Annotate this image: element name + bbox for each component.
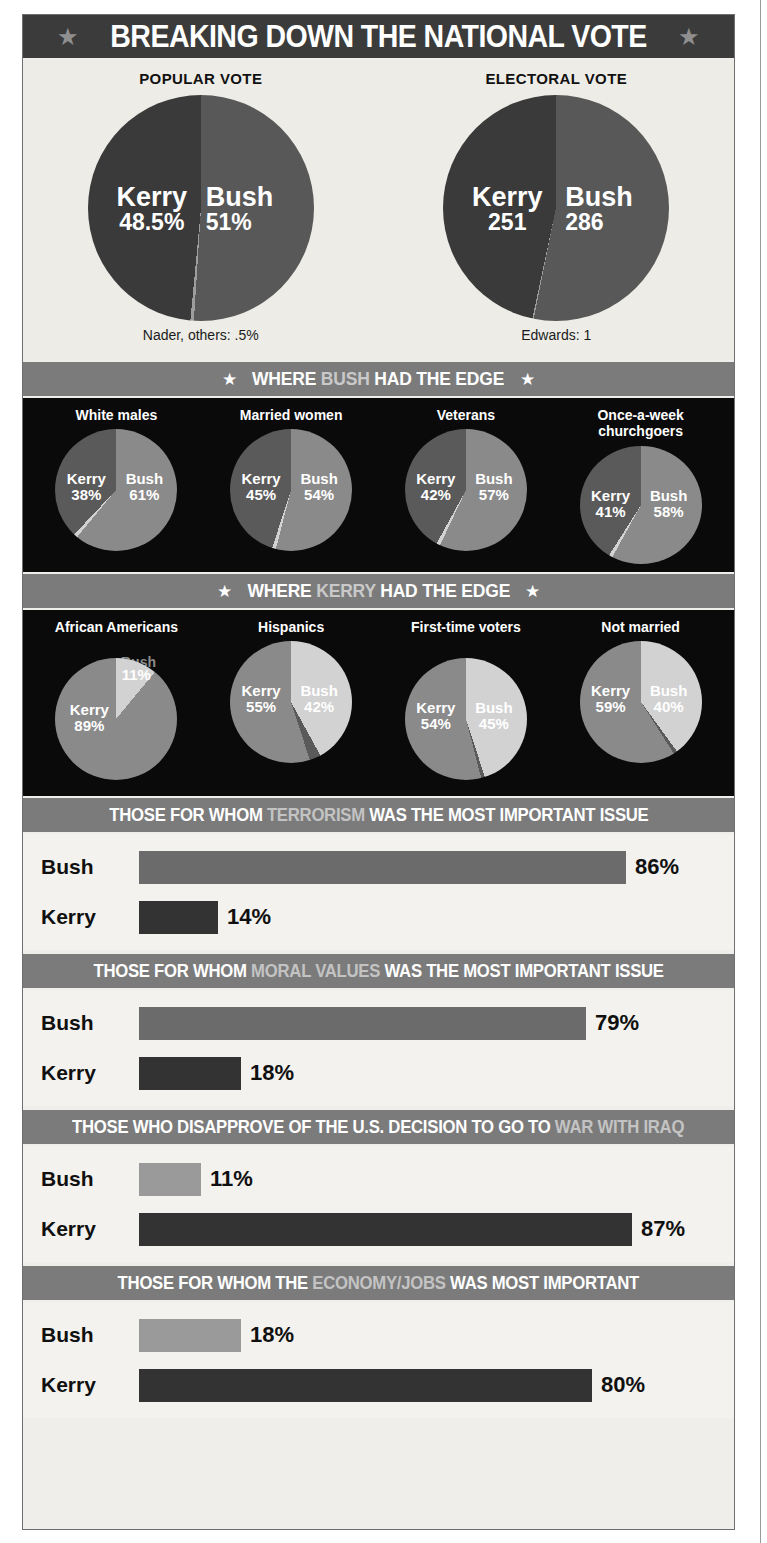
issue-terrorism-highlight: TERRORISM	[267, 805, 365, 825]
issue-economy-jobs-highlight: ECONOMY/JOBS	[312, 1273, 445, 1293]
kerry-demographics-row: African Americans Bush Kerry 89% 11% His…	[23, 610, 734, 796]
issue-header-iraq-war-text: THOSE WHO DISAPPROVE OF THE U.S. DECISIO…	[72, 1117, 684, 1138]
kerry-edge-band-text: WHERE KERRY HAD THE EDGE	[247, 580, 510, 602]
star-icon-left: ★	[57, 25, 79, 49]
issue-header-economy-jobs: THOSE FOR WHOM THE ECONOMY/JOBS WAS MOST…	[23, 1264, 734, 1300]
bush-band-highlight: BUSH	[321, 368, 370, 389]
demo-veterans-bush-label: Bush 57%	[467, 471, 521, 502]
issue-economy-jobs-prefix: THOSE FOR WHOM THE	[118, 1273, 313, 1293]
bar-track-economy-jobs-bush: 18%	[139, 1319, 724, 1352]
bar-row-moral-values-bush: Bush 79%	[35, 1002, 724, 1044]
issue-economy-jobs-suffix: WAS MOST IMPORTANT	[446, 1273, 639, 1293]
bar-track-moral-values-bush: 79%	[139, 1007, 724, 1040]
star-icon-kerry-band-right: ★	[525, 583, 540, 600]
issue-header-iraq-war: THOSE WHO DISAPPROVE OF THE U.S. DECISIO…	[23, 1108, 734, 1144]
demo-churchgoers-pie: Kerry 41% Bush 58%	[580, 446, 702, 564]
bar-value-terrorism-bush: 86%	[635, 854, 679, 880]
popular-vote-caption: Nader, others: .5%	[143, 327, 259, 343]
bar-value-terrorism-kerry: 14%	[227, 904, 271, 930]
star-icon-bush-band-right: ★	[520, 371, 535, 388]
bar-track-terrorism-kerry: 14%	[139, 901, 724, 934]
electoral-vote-title: ELECTORAL VOTE	[485, 70, 627, 87]
masthead: ★ BREAKING DOWN THE NATIONAL VOTE ★	[23, 15, 734, 60]
popular-vote-block: POPULAR VOTE Kerry 48.5% Bush 51% Nader,…	[23, 60, 379, 360]
bar-label-economy-jobs-bush: Bush	[35, 1323, 139, 1347]
page-title: BREAKING DOWN THE NATIONAL VOTE	[110, 19, 646, 55]
issue-moral-values-suffix: WAS THE MOST IMPORTANT ISSUE	[380, 961, 664, 981]
issue-body-terrorism: Bush 86% Kerry 14%	[23, 832, 734, 952]
demo-first-time-voters-kerry-label: Kerry 54%	[409, 700, 463, 731]
demo-churchgoers-title: Once-a-week churchgoers	[553, 408, 728, 442]
issue-terrorism-suffix: WAS THE MOST IMPORTANT ISSUE	[364, 805, 648, 825]
demo-african-americans-kerry-label: Kerry 89%	[61, 702, 117, 733]
issue-body-economy-jobs: Bush 18% Kerry 80%	[23, 1300, 734, 1420]
bar-row-iraq-war-kerry: Kerry 87%	[35, 1208, 724, 1250]
issue-header-terrorism-text: THOSE FOR WHOM TERRORISM WAS THE MOST IM…	[109, 805, 648, 826]
kerry-band-prefix: WHERE	[247, 580, 316, 601]
bar-track-economy-jobs-kerry: 80%	[139, 1369, 724, 1402]
bar-label-terrorism-bush: Bush	[35, 855, 139, 879]
issue-header-terrorism: THOSE FOR WHOM TERRORISM WAS THE MOST IM…	[23, 796, 734, 832]
issue-header-moral-values: THOSE FOR WHOM MORAL VALUES WAS THE MOST…	[23, 952, 734, 988]
demo-churchgoers-bush-label: Bush 58%	[642, 488, 696, 519]
demo-married-women: Married women Kerry 45% Bush 54%	[204, 408, 379, 564]
issue-body-iraq-war: Bush 11% Kerry 87%	[23, 1144, 734, 1264]
demo-hispanics-pie: Kerry 55% Bush 42%	[230, 641, 352, 763]
bar-label-moral-values-kerry: Kerry	[35, 1061, 139, 1085]
bar-economy-jobs-bush	[139, 1319, 241, 1352]
bar-row-economy-jobs-kerry: Kerry 80%	[35, 1364, 724, 1406]
bar-value-moral-values-bush: 79%	[595, 1010, 639, 1036]
demo-veterans-pie: Kerry 42% Bush 57%	[405, 429, 527, 551]
demo-white-males-bush-label: Bush 61%	[117, 471, 171, 502]
demo-married-women-pie: Kerry 45% Bush 54%	[230, 429, 352, 551]
issue-terrorism-prefix: THOSE FOR WHOM	[109, 805, 267, 825]
electoral-vote-bush-label: Bush 286	[565, 183, 655, 235]
star-icon-kerry-band-left: ★	[217, 583, 232, 600]
demo-first-time-voters: First-time voters Kerry 54% Bush 45%	[379, 620, 554, 788]
bar-track-iraq-war-bush: 11%	[139, 1163, 724, 1196]
kerry-edge-band: ★ WHERE KERRY HAD THE EDGE ★	[23, 572, 734, 610]
bar-value-economy-jobs-bush: 18%	[250, 1322, 294, 1348]
star-icon-right: ★	[678, 25, 700, 49]
demo-white-males: White males Kerry 38% Bush 61%	[29, 408, 204, 564]
bush-demographics-row: White males Kerry 38% Bush 61% Married w…	[23, 398, 734, 572]
column-rule	[760, 0, 761, 1543]
bar-label-iraq-war-bush: Bush	[35, 1167, 139, 1191]
demo-not-married-title: Not married	[601, 620, 680, 637]
demo-churchgoers: Once-a-week churchgoers Kerry 41% Bush 5…	[553, 408, 728, 564]
bar-label-economy-jobs-kerry: Kerry	[35, 1373, 139, 1397]
bush-band-prefix: WHERE	[252, 368, 321, 389]
demo-hispanics: Hispanics Kerry 55% Bush 42%	[204, 620, 379, 788]
bar-row-terrorism-kerry: Kerry 14%	[35, 896, 724, 938]
bar-track-terrorism-bush: 86%	[139, 851, 724, 884]
bar-row-iraq-war-bush: Bush 11%	[35, 1158, 724, 1200]
demo-first-time-voters-pie: Kerry 54% Bush 45%	[405, 658, 527, 780]
popular-vote-title: POPULAR VOTE	[139, 70, 262, 87]
demo-african-americans-bush-value: 11%	[113, 667, 159, 683]
issue-iraq-war-prefix: THOSE WHO DISAPPROVE OF THE U.S. DECISIO…	[72, 1117, 555, 1137]
demo-hispanics-title: Hispanics	[258, 620, 324, 637]
popular-vote-kerry-label: Kerry 48.5%	[106, 183, 198, 235]
bush-edge-band: ★ WHERE BUSH HAD THE EDGE ★	[23, 360, 734, 398]
demo-white-males-pie: Kerry 38% Bush 61%	[55, 429, 177, 551]
demo-first-time-voters-bush-label: Bush 45%	[467, 700, 521, 731]
bar-label-moral-values-bush: Bush	[35, 1011, 139, 1035]
issue-body-moral-values: Bush 79% Kerry 18%	[23, 988, 734, 1108]
bar-moral-values-kerry	[139, 1057, 241, 1090]
issue-moral-values-prefix: THOSE FOR WHOM	[93, 961, 251, 981]
bar-value-economy-jobs-kerry: 80%	[601, 1372, 645, 1398]
demo-hispanics-bush-label: Bush 42%	[292, 683, 346, 714]
bar-label-iraq-war-kerry: Kerry	[35, 1217, 139, 1241]
electoral-vote-pie: Kerry 251 Bush 286	[443, 95, 669, 321]
demo-hispanics-kerry-label: Kerry 55%	[234, 683, 288, 714]
issue-moral-values-highlight: MORAL VALUES	[251, 961, 380, 981]
infographic-frame: ★ BREAKING DOWN THE NATIONAL VOTE ★ POPU…	[22, 14, 735, 1530]
kerry-band-suffix: HAD THE EDGE	[375, 580, 510, 601]
bar-value-iraq-war-bush: 11%	[210, 1166, 253, 1192]
demo-african-americans: African Americans Bush Kerry 89% 11%	[29, 620, 204, 788]
demo-african-americans-title: African Americans	[55, 620, 178, 654]
bar-row-economy-jobs-bush: Bush 18%	[35, 1314, 724, 1356]
demo-married-women-bush-label: Bush 54%	[292, 471, 346, 502]
star-icon-bush-band-left: ★	[222, 371, 237, 388]
electoral-vote-caption: Edwards: 1	[521, 327, 591, 343]
